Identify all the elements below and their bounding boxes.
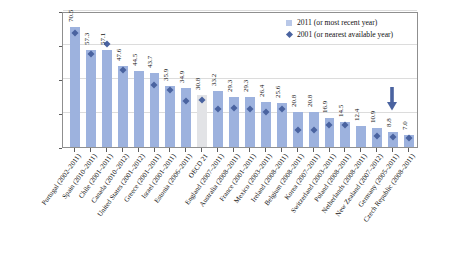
bar [70, 27, 80, 147]
bar-value-label: 16.9 [322, 101, 329, 113]
x-axis-tick-mark [408, 148, 409, 152]
bar [213, 91, 223, 147]
bar-value-label: 10.9 [370, 111, 377, 123]
bar [134, 71, 144, 147]
bar-group: 43.7 [150, 13, 160, 147]
bar-value-label: 8.8 [386, 118, 393, 127]
x-axis-tick-mark [201, 148, 202, 152]
bar-group: 33.2 [213, 13, 223, 147]
bar-group: 44.5 [134, 13, 144, 147]
y-axis-tick-mark [59, 148, 62, 149]
bar-value-label: 43.7 [147, 55, 154, 67]
bar-value-label: 35.9 [163, 69, 170, 81]
bar [165, 86, 175, 147]
x-axis-tick-mark [297, 148, 298, 152]
x-axis-tick-mark [90, 148, 91, 152]
x-axis-tick-mark [313, 148, 314, 152]
bar-value-label: 47.6 [116, 49, 123, 61]
x-axis-tick-mark [376, 148, 377, 152]
bar-group: 34.9 [181, 13, 191, 147]
x-axis-tick-mark [74, 148, 75, 152]
x-axis-tick-mark [281, 148, 282, 152]
down-arrow-icon [387, 87, 397, 111]
legend-entry: 2001 (or nearest available year) [286, 29, 393, 41]
bar-value-label: 44.5 [132, 54, 139, 66]
gridline [63, 10, 417, 11]
bar-value-label: 20.8 [291, 94, 298, 106]
square-swatch-icon [286, 20, 292, 26]
x-axis-tick-mark [249, 148, 250, 152]
bar-group: 57.3 [86, 13, 96, 147]
legend-entry: 2011 (or most recent year) [286, 17, 393, 29]
bar-value-label: 29.3 [243, 80, 250, 92]
bar-value-label: 12.4 [354, 109, 361, 121]
bar [118, 66, 128, 147]
bar-group: 30.8 [197, 13, 207, 147]
bar-value-label: 20.8 [307, 94, 314, 106]
bar-value-label: 57.1 [100, 33, 107, 45]
x-axis-tick-mark [233, 148, 234, 152]
bar-value-label: 7.0 [402, 121, 409, 130]
x-axis-tick-mark [360, 148, 361, 152]
diamond-marker-icon [285, 31, 292, 38]
bar-group: 29.3 [229, 13, 239, 147]
bar [86, 50, 96, 147]
x-axis-tick-mark [329, 148, 330, 152]
bar-value-label: 30.8 [195, 77, 202, 89]
bar-group: 7.0 [404, 13, 414, 147]
bar-value-label: 14.5 [338, 105, 345, 117]
bar-group: 35.9 [165, 13, 175, 147]
bar-group: 70.5 [70, 13, 80, 147]
bar-group: 26.4 [261, 13, 271, 147]
bar-chart: 0.020.040.060.080.0 70.557.357.147.644.5… [0, 0, 449, 259]
chart-legend: 2011 (or most recent year)2001 (or neare… [286, 17, 393, 41]
bar-value-label: 29.3 [227, 80, 234, 92]
bar-group: 47.6 [118, 13, 128, 147]
x-axis-tick-mark [106, 148, 107, 152]
bar-group: 57.1 [102, 13, 112, 147]
bar [181, 88, 191, 147]
legend-label: 2001 (or nearest available year) [297, 29, 393, 41]
bar-value-label: 26.4 [259, 85, 266, 97]
bar-value-label: 25.6 [275, 86, 282, 98]
bar [356, 126, 366, 147]
x-axis-tick-mark [265, 148, 266, 152]
legend-label: 2011 (or most recent year) [297, 17, 377, 29]
bar-value-label: 33.2 [211, 73, 218, 85]
bar-value-label: 34.9 [179, 70, 186, 82]
x-axis-tick-mark [154, 148, 155, 152]
x-axis-tick-mark [392, 148, 393, 152]
bar-group: 29.3 [245, 13, 255, 147]
x-axis-tick-mark [138, 148, 139, 152]
bar-value-label: 70.5 [68, 10, 75, 22]
x-axis-tick-mark [122, 148, 123, 152]
x-axis-tick-mark [217, 148, 218, 152]
bar [102, 50, 112, 147]
x-axis-tick-mark [185, 148, 186, 152]
bar-value-label: 57.3 [84, 32, 91, 44]
